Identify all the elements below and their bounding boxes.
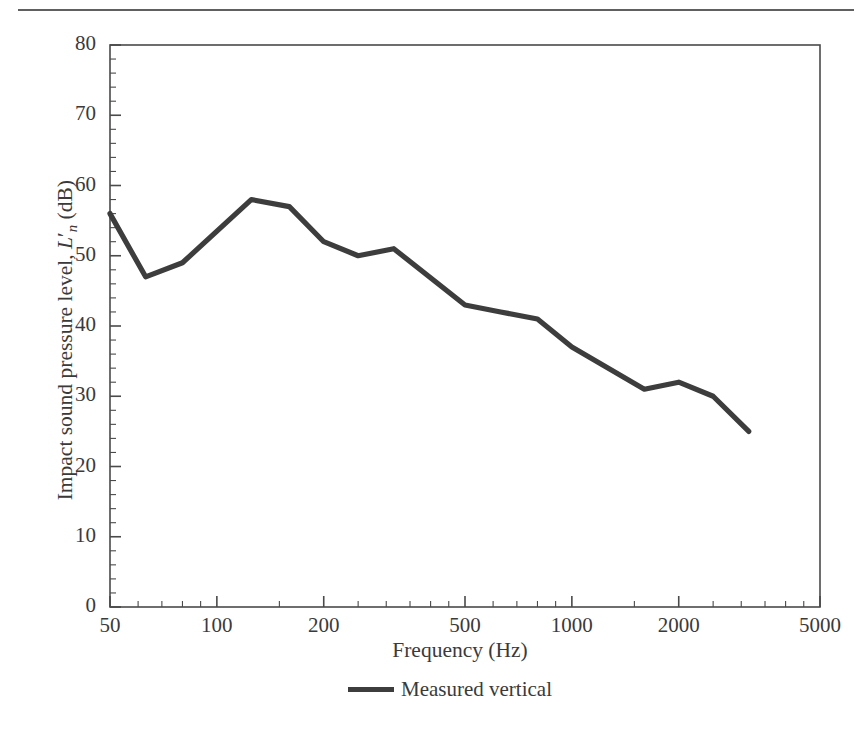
figure-container: 01020304050607080 5010020050010002000500… [0, 0, 863, 735]
data-series-measured-vertical [110, 200, 749, 432]
x-axis-tick-label: 2000 [634, 613, 724, 638]
x-axis-tick-label: 50 [65, 613, 155, 638]
chart-legend: Measured vertical [0, 677, 863, 702]
x-axis-tick-label: 5000 [775, 613, 863, 638]
x-axis-tick-label: 1000 [527, 613, 617, 638]
x-axis-title: Frequency (Hz) [0, 638, 863, 663]
plot-frame [110, 45, 820, 607]
y-axis-tick-label: 80 [52, 31, 96, 56]
x-axis-tick-label: 500 [420, 613, 510, 638]
legend-label: Measured vertical [401, 677, 552, 702]
y-axis-title: Impact sound pressure level, L′n (dB) [53, 105, 81, 575]
x-axis-tick-label: 100 [172, 613, 262, 638]
legend-line-swatch [348, 687, 394, 692]
x-axis-minor-ticks [138, 601, 804, 607]
x-axis-tick-label: 200 [279, 613, 369, 638]
